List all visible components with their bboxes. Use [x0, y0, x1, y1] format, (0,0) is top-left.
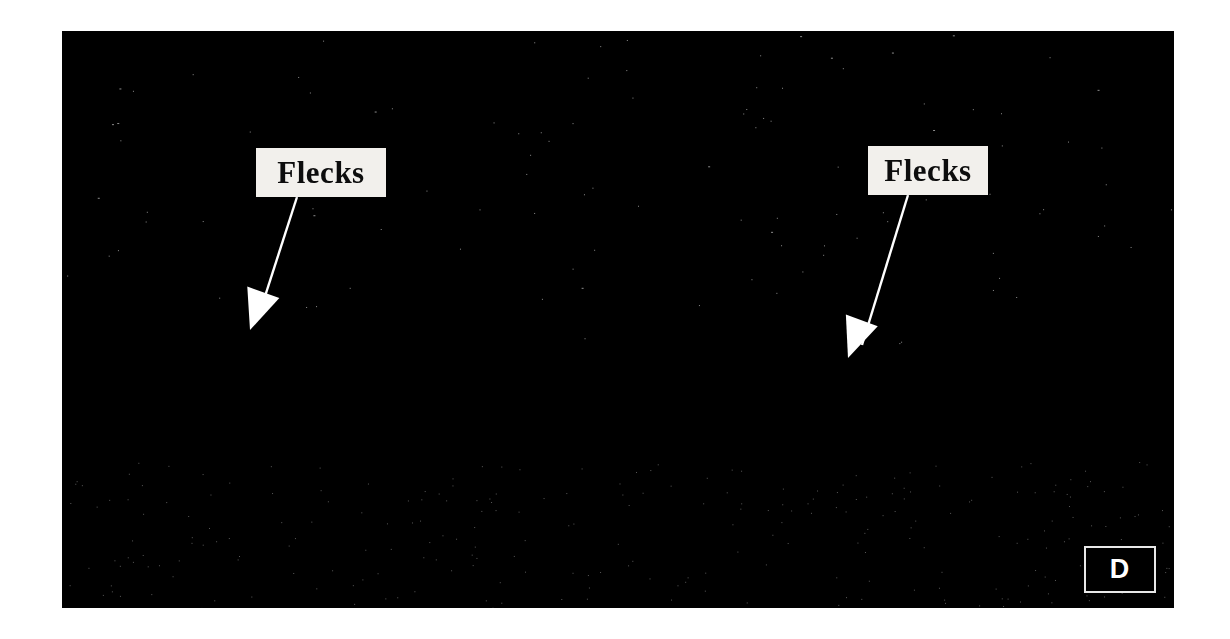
- oct-scan-image: [62, 31, 1174, 608]
- annotation-label-flecks-right: Flecks: [868, 146, 988, 195]
- oct-scan-panel: [62, 31, 1174, 608]
- annotation-label-flecks-left: Flecks: [256, 148, 386, 197]
- panel-letter-badge: D: [1084, 546, 1156, 593]
- figure-root: Flecks Flecks D: [0, 0, 1230, 639]
